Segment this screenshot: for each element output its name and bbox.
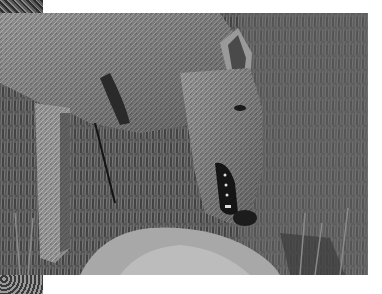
photo-fragment-bottom-left (0, 275, 43, 294)
wolf-eye (234, 105, 246, 111)
wolf-photo-illustration (0, 13, 368, 275)
wolf-nose (233, 210, 257, 226)
wolf-photo (0, 13, 368, 275)
photo-fragment-top-left (0, 0, 43, 13)
